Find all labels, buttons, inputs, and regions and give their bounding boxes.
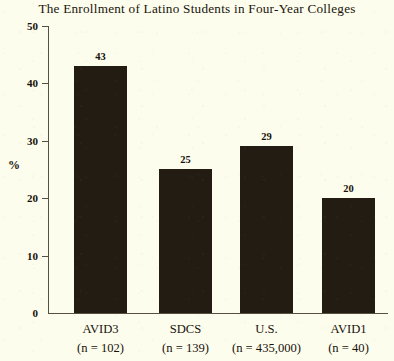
- x-category-label-avid1: AVID1: [304, 322, 393, 337]
- y-axis-line: [48, 26, 49, 314]
- y-tick-label-0: 0: [6, 307, 38, 319]
- chart-title: The Enrollment of Latino Students in Fou…: [0, 1, 394, 17]
- y-tick-label-50: 50: [6, 20, 38, 32]
- x-category-sublabel-sdcs: (n = 139): [141, 341, 230, 356]
- bar-avid1: [322, 198, 375, 313]
- y-tick-label-10: 10: [6, 250, 38, 262]
- bar-chart: The Enrollment of Latino Students in Fou…: [0, 0, 394, 361]
- x-category-sublabel-avid3: (n = 102): [56, 341, 145, 356]
- bar-us: [240, 146, 293, 313]
- x-category-label-us: U.S.: [222, 322, 311, 337]
- x-category-sublabel-us: (n = 435,000): [222, 341, 311, 356]
- y-tick-label-20: 20: [6, 192, 38, 204]
- bar-value-avid1: 20: [322, 183, 375, 194]
- bar-value-us: 29: [240, 131, 293, 142]
- y-axis-title: %: [8, 158, 20, 173]
- x-category-sublabel-avid1: (n = 40): [304, 341, 393, 356]
- bar-sdcs: [159, 169, 212, 313]
- bar-avid3: [74, 66, 127, 313]
- bar-value-avid3: 43: [74, 51, 127, 62]
- y-tick-label-40: 40: [6, 77, 38, 89]
- x-category-label-sdcs: SDCS: [141, 322, 230, 337]
- x-category-label-avid3: AVID3: [56, 322, 145, 337]
- bar-value-sdcs: 25: [159, 154, 212, 165]
- y-tick-label-30: 30: [6, 135, 38, 147]
- x-axis-line: [48, 313, 388, 314]
